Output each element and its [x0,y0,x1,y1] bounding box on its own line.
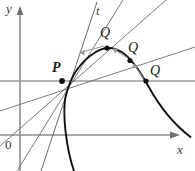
y-axis [17,6,24,171]
point-label-q3: Q [150,64,160,78]
x-axis [0,131,180,138]
y-axis-label: y [6,2,12,15]
y-axis-arrow-icon [17,6,24,15]
point-label-p: P [52,61,61,75]
point-label-q2: Q [128,41,138,55]
point-label-q1: Q [100,26,110,40]
point-marker-q1 [104,45,109,50]
figure-canvas [0,0,195,171]
calculus-secant-tangent-figure: y x 0 t P Q Q Q [0,0,195,171]
point-marker-p [59,78,65,84]
x-axis-label: x [177,143,183,156]
secant-line-pq3 [0,47,195,111]
x-axis-arrow-icon [170,131,180,138]
arrow-q2-to-p-head-icon [113,48,119,53]
tangent-line-label-t: t [96,4,100,17]
function-curve [64,48,190,171]
point-marker-q2 [127,58,132,63]
origin-label: 0 [5,138,12,151]
point-marker-q3 [143,78,148,83]
arrow-q3-to-p-shaft [135,66,144,79]
